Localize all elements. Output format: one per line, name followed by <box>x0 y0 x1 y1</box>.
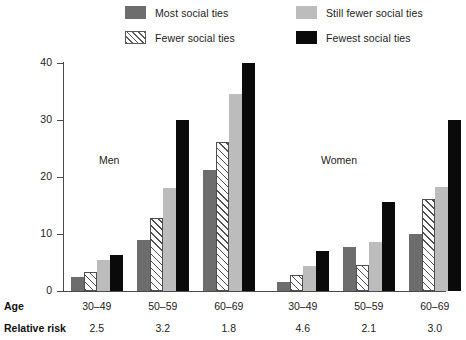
relative-risk-value-4: 2.1 <box>339 322 399 334</box>
bar-60-69-0 <box>203 170 216 291</box>
x-category-label-1: 50–59 <box>133 300 193 312</box>
bar-60-69-1 <box>422 199 435 291</box>
bar-30-49-1 <box>84 272 97 291</box>
x-category-label-0: 30–49 <box>67 300 127 312</box>
legend-swatch-fewer-icon <box>125 31 146 44</box>
bar-60-69-3 <box>448 120 461 291</box>
x-category-label-2: 60–69 <box>199 300 259 312</box>
bar-60-69-2 <box>435 187 448 291</box>
legend-swatch-still-icon <box>296 6 317 19</box>
x-category-label-3: 30–49 <box>273 300 333 312</box>
legend-label-most: Most social ties <box>155 7 228 19</box>
relative-risk-value-3: 4.6 <box>273 322 333 334</box>
bar-30-49-2 <box>97 260 110 291</box>
bar-60-69-0 <box>409 234 422 291</box>
relative-risk-value-0: 2.5 <box>67 322 127 334</box>
legend-item-most-social-ties: Most social ties <box>125 6 228 19</box>
relative-risk-value-1: 3.2 <box>133 322 193 334</box>
legend-label-fewer: Fewer social ties <box>155 32 235 44</box>
row-label-age: Age <box>4 300 24 312</box>
bar-50-59-0 <box>343 247 356 291</box>
bar-30-49-1 <box>290 275 303 291</box>
bar-60-69-3 <box>242 63 255 291</box>
bar-50-59-1 <box>150 218 163 291</box>
x-category-label-4: 50–59 <box>339 300 399 312</box>
bar-30-49-0 <box>71 277 84 291</box>
legend-item-fewest-social-ties: Fewest social ties <box>296 31 411 44</box>
bar-60-69-2 <box>229 94 242 291</box>
bar-30-49-3 <box>110 255 123 291</box>
relative-risk-value-5: 3.0 <box>405 322 465 334</box>
legend-swatch-fewest-icon <box>296 31 317 44</box>
bar-60-69-1 <box>216 142 229 291</box>
legend-item-still-fewer-social-ties: Still fewer social ties <box>296 6 423 19</box>
legend-label-fewest: Fewest social ties <box>326 32 411 44</box>
y-tick-label-0: 0 <box>22 284 52 296</box>
bar-50-59-1 <box>356 265 369 291</box>
y-tick-label-10: 10 <box>22 227 52 239</box>
bar-50-59-2 <box>163 188 176 291</box>
bar-30-49-2 <box>303 266 316 291</box>
bar-50-59-3 <box>382 202 395 291</box>
bar-50-59-2 <box>369 242 382 291</box>
bar-50-59-3 <box>176 120 189 291</box>
y-tick-label-30: 30 <box>22 113 52 125</box>
plot-area <box>63 63 446 291</box>
y-tick-0 <box>57 291 63 292</box>
legend-label-still: Still fewer social ties <box>326 7 423 19</box>
y-tick-label-20: 20 <box>22 170 52 182</box>
chart-legend: Most social ties Still fewer social ties… <box>0 0 466 56</box>
bar-50-59-0 <box>137 240 150 291</box>
bar-30-49-3 <box>316 251 329 291</box>
y-tick-label-40: 40 <box>22 56 52 68</box>
row-label-relative-risk: Relative risk <box>4 322 66 334</box>
x-category-label-5: 60–69 <box>405 300 465 312</box>
bar-30-49-0 <box>277 282 290 291</box>
legend-item-fewer-social-ties: Fewer social ties <box>125 31 235 44</box>
legend-swatch-most-icon <box>125 6 146 19</box>
chart-root: Most social ties Still fewer social ties… <box>0 0 466 340</box>
x-axis-line <box>63 291 446 292</box>
relative-risk-value-2: 1.8 <box>199 322 259 334</box>
